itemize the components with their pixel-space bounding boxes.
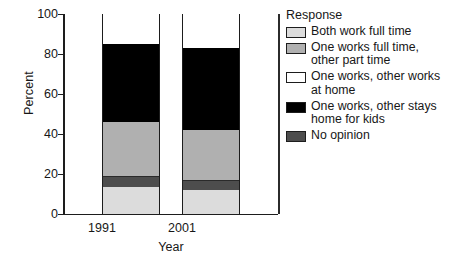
segment-2001-both-work-full-time [183, 190, 239, 214]
y-tick-label-0: 0 [24, 208, 58, 220]
segment-1991-one-works-other-home-kids [103, 44, 159, 122]
legend-swatch-one-works-other-home-kids [286, 102, 306, 113]
stacked-bar-chart: Percent 100 80 60 40 20 0 [0, 0, 461, 267]
bar-1991 [102, 14, 160, 214]
plot-right-edge [278, 14, 280, 214]
legend: Response Both work full time One works f… [286, 8, 458, 145]
legend-label-one-works-other-works-at-home: One works, other works at home [311, 70, 440, 97]
legend-label-both-work-full-time: Both work full time [311, 25, 411, 38]
y-tick-label-100: 100 [24, 8, 58, 20]
segment-1991-one-full-other-part [103, 122, 159, 176]
y-tick-label-20: 20 [24, 168, 58, 180]
y-tick-label-80: 80 [24, 48, 58, 60]
legend-swatch-one-works-other-works-at-home [286, 72, 306, 83]
legend-item-one-works-other-works-at-home: One works, other works at home [286, 70, 458, 97]
legend-label-one-full-other-part: One works full time, other part time [311, 41, 419, 68]
segment-1991-no-opinion [103, 176, 159, 187]
legend-label-one-works-other-home-kids: One works, other stays home for kids [311, 100, 437, 127]
legend-item-one-works-other-home-kids: One works, other stays home for kids [286, 100, 458, 127]
x-tick-label-2001: 2001 [142, 221, 222, 235]
segment-2001-one-full-other-part [183, 130, 239, 180]
segment-2001-one-works-other-works-at-home [183, 14, 239, 48]
segment-1991-one-works-other-works-at-home [103, 14, 159, 44]
legend-swatch-one-full-other-part [286, 43, 306, 54]
bar-2001 [182, 14, 240, 214]
segment-2001-no-opinion [183, 180, 239, 190]
y-tick-label-40: 40 [24, 128, 58, 140]
y-axis-ticks: 100 80 60 40 20 0 [20, 0, 58, 267]
legend-title: Response [286, 8, 458, 22]
y-tick-label-60: 60 [24, 88, 58, 100]
legend-swatch-no-opinion [286, 131, 306, 142]
x-axis-title: Year [64, 240, 278, 254]
x-tick-label-1991: 1991 [62, 221, 142, 235]
legend-item-both-work-full-time: Both work full time [286, 25, 458, 38]
legend-swatch-both-work-full-time [286, 27, 306, 38]
plot-area [64, 14, 278, 214]
segment-1991-both-work-full-time [103, 187, 159, 214]
segment-2001-one-works-other-home-kids [183, 48, 239, 130]
legend-item-no-opinion: No opinion [286, 129, 458, 142]
legend-label-no-opinion: No opinion [311, 129, 370, 142]
legend-item-one-full-other-part: One works full time, other part time [286, 41, 458, 68]
